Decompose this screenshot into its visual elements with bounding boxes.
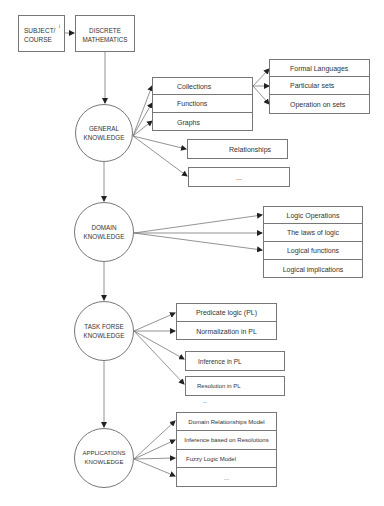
topic-domain-relationships-model: Domain Relationships Model [177,413,276,431]
node-domain-label: DOMAIN KNOWLEDGE [82,223,126,241]
topic-collections: Collections [153,78,252,95]
subtopic-particular-sets: Particular sets [270,77,369,95]
topic-relationships-label: Relationships [229,146,271,153]
collections-subtopics-box: Formal Languages Particular sets Operati… [269,59,370,114]
node-general-label: GENERAL KNOWLEDGE [82,124,126,142]
domain-topics-box: Logic Operations The laws of logic Logic… [263,206,363,278]
node-task-label: TASK FORSE KNOWLEDGE [81,322,127,340]
subject-course-label: SUBJECT/ COURSE [24,26,64,44]
task-more: .. [203,397,207,404]
general-topics-box: Collections Functions Graphs [152,77,253,131]
topic-resolution-label: Resolution in PL [197,383,241,389]
topic-logic-operations: Logic Operations [264,207,362,224]
topic-inference-in-pl: Inference in PL [185,351,285,371]
topic-inference-based-on-resolutions: Inference based on Resolutions [177,431,276,450]
topic-resolution-in-pl: Resolution in PL [185,376,285,396]
topic-inference-label: Inference in PL [198,358,242,365]
topic-functions: Functions [153,95,252,113]
topic-predicate-logic: Predicate logic (PL) [177,304,276,322]
subtopic-operation-on-sets: Operation on sets [270,95,369,114]
subtopic-formal-languages: Formal Languages [270,60,369,77]
applications-topics-box: Domain Relationships Model Inference bas… [176,412,277,487]
topic-logical-implications: Logical implications [264,260,362,278]
node-task-forse-knowledge: TASK FORSE KNOWLEDGE [74,301,134,361]
subject-course-box: SUBJECT/ COURSE ʲ [18,15,65,52]
node-domain-knowledge: DOMAIN KNOWLEDGE [74,202,134,262]
topic-fuzzy-logic-model: Fuzzy Logic Model [177,450,276,468]
topic-applications-more: ... [177,468,276,487]
topic-more: ... [188,167,290,187]
topic-logical-functions: Logical functions [264,242,362,260]
discrete-mathematics-box: DISCRETE MATHEMATICS [75,15,135,52]
subject-mark: ʲ [59,24,60,30]
topic-normalization: Normalization in PL [177,322,276,340]
node-applications-knowledge: APPLICATIONS KNOWLEDGE [74,428,134,488]
topic-laws-of-logic: The laws of logic [264,224,362,242]
task-topics-box: Predicate logic (PL) Normalization in PL [176,303,277,340]
node-general-knowledge: GENERAL KNOWLEDGE [75,104,133,162]
node-applications-label: APPLICATIONS KNOWLEDGE [77,449,131,467]
discrete-mathematics-label: DISCRETE MATHEMATICS [76,26,134,44]
knowledge-structure-diagram: SUBJECT/ COURSE ʲ DISCRETE MATHEMATICS G… [0,0,384,506]
topic-more-label: ... [236,174,242,181]
topic-relationships: Relationships [187,139,288,159]
topic-graphs: Graphs [153,113,252,131]
